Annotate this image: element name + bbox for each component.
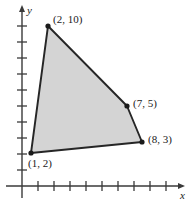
shaded-polygon xyxy=(31,26,142,153)
vertex-label-7-5: (7, 5) xyxy=(133,97,157,109)
coordinate-plane-figure: (2, 10) (7, 5) (8, 3) (1, 2) y x xyxy=(0,0,195,205)
vertex-dot-2-10 xyxy=(45,23,50,28)
vertex-label-1-2: (1, 2) xyxy=(28,157,52,169)
y-axis-arrowhead xyxy=(19,5,25,12)
plot-svg xyxy=(0,0,195,205)
vertex-dot-8-3 xyxy=(139,139,144,144)
vertex-label-2-10: (2, 10) xyxy=(53,13,82,25)
x-axis-label: x xyxy=(180,189,185,201)
y-axis-label: y xyxy=(27,4,32,16)
vertex-dot-1-2 xyxy=(28,150,33,155)
vertex-label-8-3: (8, 3) xyxy=(148,133,172,145)
vertex-dot-7-5 xyxy=(124,103,129,108)
